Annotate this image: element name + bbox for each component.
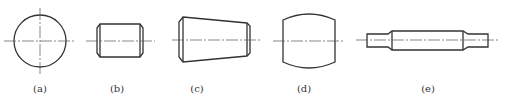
- panel-b-cylinder: [97, 24, 143, 57]
- panel-label-c: (c): [190, 83, 203, 94]
- panel-label-d: (d): [297, 83, 311, 94]
- panel-c-taper: [179, 17, 250, 62]
- panel-e-shaft: [367, 31, 488, 50]
- panel-label-e: (e): [421, 83, 435, 94]
- panel-label-a: (a): [33, 83, 47, 94]
- panel-label-b: (b): [110, 83, 124, 94]
